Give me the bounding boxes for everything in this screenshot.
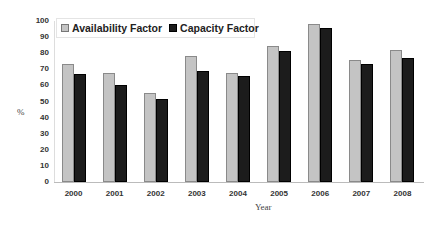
- y-tick-label: 60: [27, 80, 49, 90]
- legend-swatch-availability: [61, 24, 69, 32]
- bar-capacity: [156, 99, 168, 182]
- y-tick-label: 70: [27, 64, 49, 74]
- bar-availability: [62, 64, 74, 182]
- x-axis-label: Year: [255, 202, 272, 212]
- bar-availability: [349, 60, 361, 182]
- bar-availability: [103, 73, 115, 182]
- y-tick-label: 80: [27, 48, 49, 58]
- y-axis-label: %: [17, 107, 25, 117]
- y-tick-label: 100: [27, 16, 49, 26]
- legend-label: Capacity Factor: [180, 22, 259, 34]
- bar-capacity: [320, 28, 332, 182]
- x-axis-line: [54, 182, 424, 183]
- legend-label: Availability Factor: [72, 22, 162, 34]
- x-tick-label: 2007: [341, 189, 381, 199]
- y-tick-label: 20: [27, 145, 49, 155]
- y-tick-label: 30: [27, 129, 49, 139]
- y-tick-label: 0: [27, 177, 49, 187]
- bar-availability: [226, 73, 238, 182]
- x-tick-label: 2005: [259, 189, 299, 199]
- x-tick-label: 2008: [382, 189, 422, 199]
- bar-capacity: [238, 76, 250, 182]
- bar-capacity: [361, 64, 373, 182]
- legend-swatch-capacity: [169, 24, 177, 32]
- x-tick-label: 2002: [136, 189, 176, 199]
- x-tick-label: 2003: [177, 189, 217, 199]
- bar-capacity: [197, 71, 209, 182]
- x-tick-label: 2001: [95, 189, 135, 199]
- bar-availability: [185, 56, 197, 182]
- bar-capacity: [115, 85, 127, 182]
- bar-availability: [267, 46, 279, 182]
- x-tick-label: 2006: [300, 189, 340, 199]
- legend-item-capacity: Capacity Factor: [169, 22, 259, 34]
- bar-capacity: [74, 74, 86, 182]
- bar-availability: [390, 50, 402, 182]
- y-tick-label: 10: [27, 161, 49, 171]
- bar-capacity: [279, 51, 291, 182]
- x-tick-label: 2000: [54, 189, 94, 199]
- bar-chart: 0102030405060708090100 20002001200220032…: [0, 0, 442, 226]
- y-tick-label: 90: [27, 32, 49, 42]
- bar-availability: [144, 93, 156, 182]
- bar-capacity: [402, 58, 414, 182]
- y-tick-label: 40: [27, 113, 49, 123]
- legend-item-availability: Availability Factor: [61, 22, 162, 34]
- bar-availability: [308, 24, 320, 182]
- x-tick-label: 2004: [218, 189, 258, 199]
- legend: Availability Factor Capacity Factor: [56, 18, 255, 38]
- y-axis-line: [54, 21, 55, 182]
- y-tick-label: 50: [27, 97, 49, 107]
